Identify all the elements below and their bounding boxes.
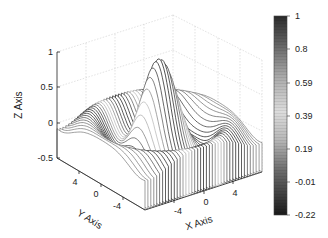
z-tick: 0: [48, 118, 53, 128]
x-axis-label: X Axis: [184, 213, 214, 232]
z-tick: 1: [48, 47, 53, 57]
y-tick: 0: [93, 189, 98, 199]
colorbar-tick: 0.59: [295, 78, 313, 88]
surface-plot: 1 0.5 0 -0.5 4 0 -4 -4 0 4 Z Axis Y Axis…: [0, 0, 328, 238]
colorbar: 1 0.8 0.59 0.39 0.19 -0.01 -0.22: [274, 11, 316, 220]
x-tick: 0: [203, 197, 208, 207]
y-tick: -4: [113, 201, 121, 211]
z-tick: 0.5: [40, 82, 53, 92]
z-tick: -0.5: [37, 153, 53, 163]
colorbar-tick: -0.01: [295, 177, 316, 187]
colorbar-tick: 0.39: [295, 111, 313, 121]
colorbar-tick: -0.22: [295, 210, 316, 220]
waterfall-surface: [57, 59, 262, 210]
colorbar-tick: 1: [295, 11, 300, 21]
z-axis-label: Z Axis: [13, 91, 24, 118]
y-tick: 4: [72, 177, 77, 187]
x-tick: -4: [174, 206, 182, 216]
colorbar-tick: 0.19: [295, 144, 313, 154]
y-axis-label: Y Axis: [75, 207, 104, 231]
x-tick: 4: [232, 188, 237, 198]
colorbar-tick: 0.8: [295, 44, 308, 54]
